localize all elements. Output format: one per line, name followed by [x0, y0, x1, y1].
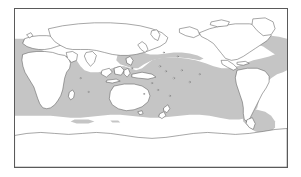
island-dot — [132, 68, 133, 69]
island-dot — [165, 71, 166, 72]
island-dot — [173, 77, 175, 79]
island-dot — [177, 56, 178, 57]
island-dot — [199, 74, 200, 75]
island-dot — [88, 91, 89, 92]
island-dot — [159, 65, 161, 67]
island-dot — [80, 78, 81, 79]
world-map — [15, 9, 287, 167]
island-dot — [151, 82, 152, 83]
distribution-map-figure: Distribution range (shaded) Land Coastli… — [0, 0, 301, 177]
island-dot — [157, 89, 158, 90]
island-dot — [163, 52, 164, 53]
island-dot — [181, 70, 182, 71]
island-dot — [189, 81, 190, 82]
island-dot — [143, 93, 144, 94]
map-frame — [14, 8, 288, 168]
island-dot — [169, 95, 170, 96]
